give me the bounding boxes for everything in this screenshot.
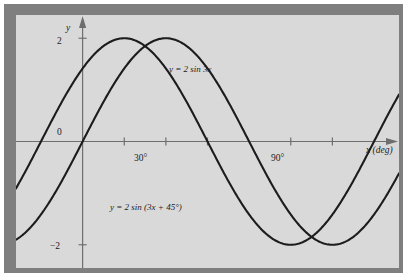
y-tick-label-minus-2: −2	[50, 242, 60, 252]
y-axis-arrow	[79, 16, 86, 28]
figure-container: y x (deg) 2 0 −2 30° 90° y = 2 sin 3x y …	[0, 0, 407, 277]
x-tick-label-90: 90°	[271, 154, 284, 164]
y-tick-label-0: 0	[57, 128, 62, 138]
plot-area: y x (deg) 2 0 −2 30° 90° y = 2 sin 3x y …	[16, 15, 399, 268]
figure-frame: y x (deg) 2 0 −2 30° 90° y = 2 sin 3x y …	[4, 4, 403, 273]
x-axis-label: x (deg)	[366, 146, 393, 156]
curve-b-label: y = 2 sin (3x + 45°)	[110, 203, 182, 212]
y-axis-label: y	[66, 24, 70, 34]
y-tick-label-2: 2	[57, 37, 62, 47]
chart-canvas	[16, 15, 399, 268]
x-tick-label-30: 30°	[134, 154, 147, 164]
curve-a-label: y = 2 sin 3x	[169, 65, 212, 74]
